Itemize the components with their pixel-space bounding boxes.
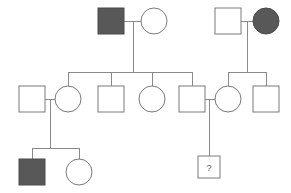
symbol-circle-unaffected-female[interactable] [215,86,241,112]
individual-II-2[interactable] [55,86,81,112]
individual-I-2[interactable] [141,8,167,34]
symbol-square-unaffected-male[interactable] [19,86,45,112]
individual-II-6[interactable] [215,86,241,112]
symbol-circle-unaffected-female[interactable] [66,159,92,185]
individual-II-7[interactable] [253,86,279,112]
individual-III-1[interactable] [19,159,45,185]
individual-II-1[interactable] [19,86,45,112]
unknown-status-label: ? [206,163,211,173]
individual-I-4[interactable] [253,8,279,34]
symbol-square-unaffected-male[interactable] [98,86,124,112]
symbol-circle-unaffected-female[interactable] [141,8,167,34]
individual-II-4[interactable] [139,86,165,112]
symbol-square-unaffected-male[interactable] [253,86,279,112]
symbol-square-unaffected-male[interactable] [179,86,205,112]
symbol-square-affected-male[interactable] [19,159,45,185]
symbol-circle-unaffected-female[interactable] [139,86,165,112]
pedigree-canvas: ? [0,0,291,193]
symbol-square-affected-male[interactable] [98,8,124,34]
pedigree-diagram: ? [0,0,291,193]
individual-II-3[interactable] [98,86,124,112]
individual-III-3[interactable]: ? [198,156,220,178]
symbol-square-unaffected-male[interactable] [215,8,241,34]
individual-III-2[interactable] [66,159,92,185]
symbol-circle-unaffected-female[interactable] [55,86,81,112]
symbol-circle-affected-female[interactable] [253,8,279,34]
individual-II-5[interactable] [179,86,205,112]
individual-I-1[interactable] [98,8,124,34]
individual-I-3[interactable] [215,8,241,34]
